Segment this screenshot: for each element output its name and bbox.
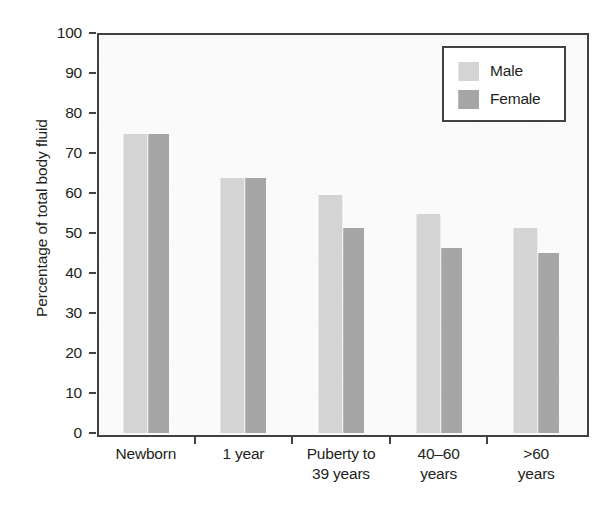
y-axis-tick-label: 50 <box>28 224 82 242</box>
bar-male-Puberty to 39 years <box>318 195 343 433</box>
x-axis-tick <box>291 435 293 444</box>
category-label-line2: years <box>384 464 494 484</box>
bar-group <box>220 33 266 433</box>
y-axis-tick <box>89 312 96 314</box>
x-axis-category-label: Newborn <box>91 444 201 464</box>
x-axis-tick <box>194 435 196 444</box>
bar-group <box>123 33 169 433</box>
bar-female-1 year <box>245 178 266 433</box>
y-axis-tick-label: 100 <box>28 24 82 42</box>
bar-female-Newborn <box>148 134 169 433</box>
x-axis-category-label: Puberty to39 years <box>286 444 396 484</box>
y-axis-tick <box>89 272 96 274</box>
y-axis-tick <box>89 152 96 154</box>
bar-male-1 year <box>220 178 245 433</box>
category-label-line2: 39 years <box>286 464 396 484</box>
y-axis-tick-label: 0 <box>28 424 82 442</box>
category-label-line1: Newborn <box>115 445 176 462</box>
y-axis-tick-label: 30 <box>28 304 82 322</box>
category-label-line1: Puberty to <box>307 445 376 462</box>
x-axis-tick <box>486 435 488 444</box>
x-axis-category-label: 1 year <box>188 444 298 464</box>
x-axis-tick <box>389 435 391 444</box>
bar-female->60 years <box>538 253 559 433</box>
y-axis-tick <box>89 432 96 434</box>
y-axis-tick <box>89 392 96 394</box>
category-label-line1: >60 <box>523 445 549 462</box>
legend-item-male: Male <box>458 57 564 85</box>
y-axis-tick <box>89 232 96 234</box>
bar-male-Newborn <box>123 134 148 433</box>
legend-label-female: Female <box>490 90 540 108</box>
y-axis-tick-label: 10 <box>28 384 82 402</box>
female-swatch-icon <box>458 90 479 109</box>
y-axis-tick <box>89 352 96 354</box>
bar-female-Puberty to 39 years <box>343 228 364 433</box>
y-axis-tick <box>89 72 96 74</box>
x-axis-category-label: 40–60years <box>384 444 494 484</box>
x-axis-category-label: >60years <box>481 444 591 484</box>
chart-legend: Male Female <box>442 46 566 122</box>
bar-chart-figure: Percentage of total body fluid 010203040… <box>0 0 610 509</box>
category-label-line2: years <box>481 464 591 484</box>
legend-item-female: Female <box>458 85 564 113</box>
y-axis-tick-label: 40 <box>28 264 82 282</box>
y-axis-tick-label: 60 <box>28 184 82 202</box>
y-axis-tick-label: 20 <box>28 344 82 362</box>
category-label-line1: 1 year <box>222 445 264 462</box>
y-axis-tick <box>89 192 96 194</box>
y-axis-tick <box>89 112 96 114</box>
legend-label-male: Male <box>490 62 523 80</box>
bar-female-40–60 years <box>441 248 462 433</box>
category-label-line1: 40–60 <box>418 445 460 462</box>
y-axis-tick-label: 90 <box>28 64 82 82</box>
bar-group <box>318 33 364 433</box>
y-axis-tick-label: 80 <box>28 104 82 122</box>
bar-male->60 years <box>513 228 538 433</box>
bar-male-40–60 years <box>416 214 441 433</box>
y-axis-tick <box>89 32 96 34</box>
male-swatch-icon <box>458 62 479 81</box>
y-axis-tick-label: 70 <box>28 144 82 162</box>
